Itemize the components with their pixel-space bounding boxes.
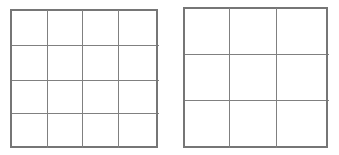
grid-cell-r4-c4[interactable] bbox=[118, 113, 157, 147]
grids-illustration bbox=[0, 0, 339, 155]
grid-cell-r2-c1[interactable] bbox=[11, 45, 47, 80]
grid-cell-r2-c3[interactable] bbox=[82, 45, 118, 80]
right-grid bbox=[184, 8, 329, 147]
grid-cell-r3-c2[interactable] bbox=[229, 100, 276, 147]
grid-cell-r1-c4[interactable] bbox=[118, 10, 157, 45]
grid-cell-r2-c2[interactable] bbox=[229, 54, 276, 100]
grid-cell-r2-c4[interactable] bbox=[118, 45, 157, 80]
grid-cell-r3-c4[interactable] bbox=[118, 80, 157, 113]
grid-cell-r4-c2[interactable] bbox=[47, 113, 82, 147]
grid-cell-r3-c1[interactable] bbox=[184, 100, 229, 147]
grid-cell-r2-c1[interactable] bbox=[184, 54, 229, 100]
grid-cell-r4-c3[interactable] bbox=[82, 113, 118, 147]
grid-cell-r2-c2[interactable] bbox=[47, 45, 82, 80]
grid-cell-r1-c2[interactable] bbox=[229, 8, 276, 54]
grid-cell-r3-c3[interactable] bbox=[82, 80, 118, 113]
grid-cell-r2-c3[interactable] bbox=[276, 54, 327, 100]
grid-cell-r1-c1[interactable] bbox=[11, 10, 47, 45]
grid-cell-r3-c1[interactable] bbox=[11, 80, 47, 113]
grid-cell-r1-c3[interactable] bbox=[82, 10, 118, 45]
grid-cell-r1-c2[interactable] bbox=[47, 10, 82, 45]
grid-cell-r4-c1[interactable] bbox=[11, 113, 47, 147]
grid-cell-r1-c1[interactable] bbox=[184, 8, 229, 54]
drawing-canvas bbox=[0, 0, 339, 155]
grid-cell-r3-c3[interactable] bbox=[276, 100, 327, 147]
grid-cell-r1-c3[interactable] bbox=[276, 8, 327, 54]
grid-cell-r3-c2[interactable] bbox=[47, 80, 82, 113]
left-grid bbox=[11, 10, 159, 147]
